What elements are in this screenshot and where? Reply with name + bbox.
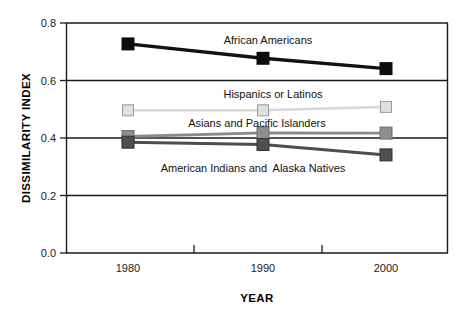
series-label-hispanics-or-latinos: Hispanics or Latinos — [223, 88, 323, 100]
series-label-american-indians-and-alaska-natives: American Indians and Alaska Natives — [161, 162, 346, 174]
x-tick-label-1990: 1990 — [251, 262, 275, 274]
series-label-african-americans: African Americans — [224, 34, 313, 46]
y-tick-label-0.4: 0.4 — [41, 132, 56, 144]
y-tick-label-0.6: 0.6 — [41, 75, 56, 87]
y-tick-label-0.2: 0.2 — [41, 190, 56, 202]
y-tick-label-0.0: 0.0 — [41, 247, 56, 259]
data-point-american-indians-1990 — [257, 139, 269, 151]
y-axis-title: DISSIMILARITY INDEX — [20, 73, 32, 203]
y-tick-label-0.8: 0.8 — [41, 17, 56, 29]
data-point-hispanics-2000 — [381, 101, 392, 112]
series-label-asians-and-pacific-islanders: Asians and Pacific Islanders — [188, 117, 326, 129]
data-point-hispanics-1980 — [123, 105, 134, 116]
chart-figure: 0.8 0.6 0.4 0.2 0.0 1980 1990 2000 — [0, 0, 465, 322]
x-axis-title: YEAR — [240, 292, 274, 304]
data-point-american-indians-1980 — [122, 136, 134, 148]
data-point-hispanics-1990 — [258, 105, 269, 116]
x-tick-label-2000: 2000 — [374, 262, 398, 274]
x-tick-labels: 1980 1990 2000 — [116, 262, 398, 274]
y-tick-marks — [60, 23, 66, 253]
data-point-african-americans-2000 — [380, 62, 393, 75]
data-point-african-americans-1980 — [122, 37, 135, 50]
data-point-african-americans-1990 — [257, 52, 270, 65]
data-point-american-indians-2000 — [380, 149, 392, 161]
y-tick-labels: 0.8 0.6 0.4 0.2 0.0 — [41, 17, 56, 259]
data-point-asians-2000 — [380, 127, 392, 139]
x-tick-label-1980: 1980 — [116, 262, 140, 274]
dissimilarity-index-line-chart: 0.8 0.6 0.4 0.2 0.0 1980 1990 2000 — [0, 0, 465, 322]
